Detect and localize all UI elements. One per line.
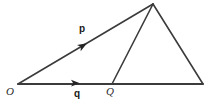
- arrowhead-p-icon: [77, 40, 89, 51]
- point-label-O: O: [6, 86, 14, 97]
- vector-label-p: p: [79, 24, 85, 34]
- vector-triangle-diagram: p q O Q: [0, 0, 213, 108]
- segment-apex-to-right-vertex: [153, 4, 203, 84]
- point-label-Q: Q: [106, 86, 114, 97]
- vector-label-q: q: [74, 89, 80, 99]
